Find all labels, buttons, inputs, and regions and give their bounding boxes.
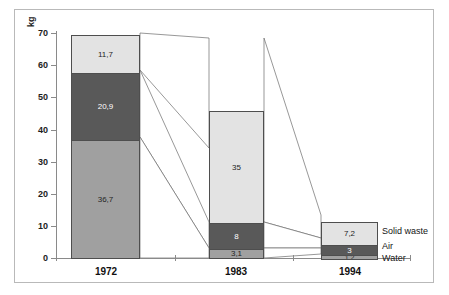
y-tick-label-0: 0	[24, 254, 48, 263]
y-tick-label-10: 10	[24, 222, 48, 231]
bar-1972-solid-waste-label: 11,7	[98, 51, 113, 59]
bar-1983-air: 8	[209, 223, 264, 250]
x-tick-1	[175, 255, 176, 261]
bar-1972-air-label: 20,9	[98, 103, 114, 111]
y-tick-20	[51, 194, 57, 195]
legend-item-air: Air	[382, 241, 393, 251]
y-tick-label-40: 40	[24, 126, 48, 135]
bar-1972-water: 36,7	[71, 140, 140, 259]
bar-1983-air-label: 8	[234, 233, 238, 241]
chart-page: kg 70 60 50 40 30 20 10 0 36,7 20,9 11,7	[0, 0, 449, 295]
y-tick-50	[51, 97, 57, 98]
bar-1994-air-label: 3	[347, 247, 351, 255]
bar-1983-solid-waste-label: 35	[232, 164, 241, 172]
legend-item-water: Water	[382, 253, 406, 263]
y-tick-60	[51, 65, 57, 66]
y-tick-label-30: 30	[24, 158, 48, 167]
bar-1972-solid-waste: 11,7	[71, 35, 140, 74]
bar-1983-water: 3,1	[209, 249, 264, 259]
legend-item-solid-waste: Solid waste	[382, 226, 428, 236]
y-tick-40	[51, 130, 57, 131]
x-label-1983: 1983	[191, 266, 281, 277]
bar-1994-solid-waste: 7,2	[321, 222, 378, 246]
bar-1983-solid-waste: 35	[209, 111, 264, 224]
bar-1983-water-label: 3,1	[231, 250, 242, 258]
y-tick-30	[51, 162, 57, 163]
y-axis-unit-label: kg	[26, 16, 36, 27]
y-tick-label-50: 50	[24, 93, 48, 102]
x-tick-2	[293, 255, 294, 261]
x-tick-right	[410, 255, 411, 261]
y-tick-label-60: 60	[24, 61, 48, 70]
y-tick-70	[51, 33, 57, 34]
bar-1994-air: 3	[321, 245, 378, 256]
x-label-1994: 1994	[305, 266, 395, 277]
y-tick-label-70: 70	[24, 29, 48, 38]
bar-1972-water-label: 36,7	[98, 196, 114, 204]
y-tick-10	[51, 226, 57, 227]
x-label-1972: 1972	[61, 266, 151, 277]
plot-area: kg 70 60 50 40 30 20 10 0 36,7 20,9 11,7	[0, 0, 449, 295]
y-tick-label-20: 20	[24, 190, 48, 199]
bar-1972-air: 20,9	[71, 73, 140, 141]
bar-1994-solid-waste-label: 7,2	[344, 230, 355, 238]
x-tick-left	[56, 255, 57, 261]
